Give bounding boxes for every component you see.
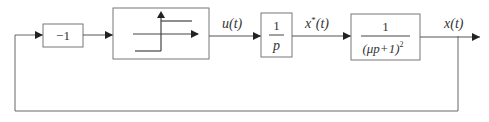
relay-block [113, 8, 209, 59]
block-diagram: −1 u(t) 1 p x*(t) 1 (μp+1)2 x(t) [0, 0, 489, 122]
signal-u-label: u(t) [222, 16, 243, 32]
integrator-block: 1 p [261, 13, 292, 57]
signal-xstar-label: x*(t) [304, 15, 329, 32]
plant-denominator: (μp+1)2 [363, 40, 404, 56]
gain-block: −1 [43, 24, 83, 47]
gain-label: −1 [56, 28, 70, 43]
plant-block: 1 (μp+1)2 [351, 14, 420, 60]
integrator-numerator: 1 [273, 18, 280, 33]
integrator-denominator: p [272, 38, 280, 53]
plant-numerator: 1 [382, 19, 389, 34]
signal-x-label: x(t) [443, 16, 464, 32]
